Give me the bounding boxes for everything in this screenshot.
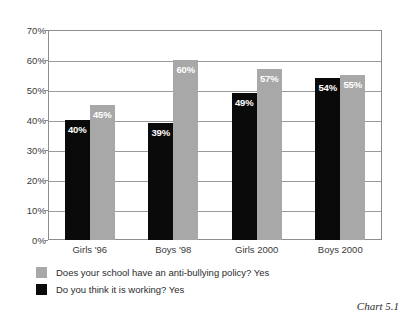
x-tick-label: Girls '96 — [48, 244, 132, 255]
y-tick-label: 40% — [2, 115, 46, 126]
y-tick-label: 50% — [2, 85, 46, 96]
legend-swatch — [36, 267, 47, 278]
legend-swatch — [36, 284, 47, 295]
y-axis: 0%10%20%30%40%50%60%70% — [0, 30, 46, 240]
x-tick-label: Girls 2000 — [215, 244, 299, 255]
x-axis-labels: Girls '96Boys '98Girls 2000Boys 2000 — [48, 244, 382, 260]
gridline — [49, 151, 381, 152]
gridline — [49, 121, 381, 122]
chart-caption: Chart 5.1 — [357, 300, 399, 312]
gridline — [49, 61, 381, 62]
y-tick-label: 60% — [2, 55, 46, 66]
gridline — [49, 181, 381, 182]
y-tick-label: 20% — [2, 175, 46, 186]
legend-item: Does your school have an anti-bullying p… — [36, 264, 269, 281]
y-tick-label: 70% — [2, 25, 46, 36]
chart-legend: Does your school have an anti-bullying p… — [36, 264, 269, 298]
gridline — [49, 91, 381, 92]
x-tick-label: Boys 2000 — [299, 244, 383, 255]
y-tick-label: 10% — [2, 205, 46, 216]
y-tick-label: 30% — [2, 145, 46, 156]
legend-label: Do you think it is working? Yes — [56, 284, 184, 295]
plot-area — [48, 30, 382, 240]
y-tick-mark — [44, 240, 48, 241]
legend-label: Does your school have an anti-bullying p… — [56, 267, 269, 278]
gridline — [49, 211, 381, 212]
bar-chart: 0%10%20%30%40%50%60%70% 40%45%39%60%49%5… — [0, 0, 411, 324]
legend-item: Do you think it is working? Yes — [36, 281, 269, 298]
x-tick-label: Boys '98 — [132, 244, 216, 255]
y-tick-label: 0% — [2, 235, 46, 246]
